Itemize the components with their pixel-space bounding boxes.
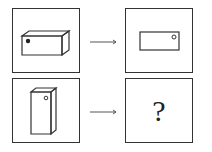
- vertical-box-icon: [13, 79, 79, 142]
- horizontal-box-icon: [13, 9, 79, 72]
- question-mark: ?: [126, 79, 192, 142]
- panel-row1-result: [125, 8, 193, 73]
- panel-row2-source: [12, 78, 80, 143]
- panel-row1-source: [12, 8, 80, 73]
- right-arrow-icon: [89, 38, 119, 46]
- arrow-row2: [89, 108, 119, 116]
- arrow-row1: [89, 38, 119, 46]
- panel-row2-answer: ?: [125, 78, 193, 143]
- right-arrow-icon: [89, 108, 119, 116]
- front-view-rectangle-icon: [126, 9, 192, 72]
